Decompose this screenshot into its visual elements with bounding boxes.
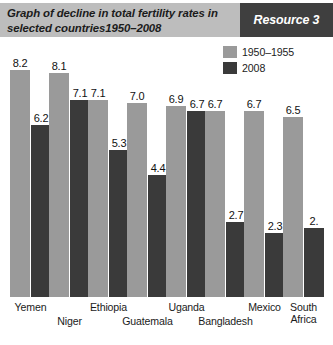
bar-value-label: 5.3 [112,137,127,149]
bar: 8.2 [10,70,30,297]
bar: 4.4 [148,175,168,297]
bar-value-label: 4.4 [151,162,166,174]
bar-value-label: 7.1 [73,87,88,99]
bar: 2.3 [265,233,285,297]
category-label: South Africa [274,302,333,325]
bar: 5.3 [109,150,129,297]
bar-value-label: 7.1 [91,87,106,99]
bar: 6.7 [205,111,225,297]
bar-value-label: 2.3 [268,220,283,232]
bar: 6.7 [244,111,264,297]
bar-value-label: 6.7 [247,98,262,110]
bar-value-label: 8.2 [13,57,28,69]
category-label: Guatemala [118,316,177,328]
category-label: Ethiopia [79,302,138,314]
bar: 7.1 [70,100,90,297]
category-label: Yemen [1,302,60,314]
bar: 2. [304,228,324,297]
fertility-rate-chart-figure: Graph of decline in total fertility rate… [0,0,333,345]
bar-value-label: 2. [310,215,319,227]
bar: 7.0 [127,103,147,297]
bar-value-label: 6.5 [286,104,301,116]
bar: 6.9 [166,106,186,297]
bar-value-label: 6.7 [208,98,223,110]
bar: 6.2 [31,125,51,297]
bar-value-label: 8.1 [52,60,67,72]
bar-value-label: 2.7 [229,209,244,221]
bar-value-label: 6.2 [34,112,49,124]
category-label: Uganda [157,302,216,314]
bar: 8.1 [49,73,69,297]
category-label: Bangladesh [196,316,255,328]
bar-value-label: 7.0 [130,90,145,102]
bar: 6.5 [283,117,303,297]
bar: 2.7 [226,222,246,297]
category-label: Niger [40,316,99,328]
bar-value-label: 6.7 [190,98,205,110]
bar: 7.1 [88,100,108,297]
bar: 6.7 [187,111,207,297]
bar-value-label: 6.9 [169,93,184,105]
plot-area: 8.26.2Yemen8.17.1Niger7.15.3Ethiopia7.04… [0,0,333,345]
